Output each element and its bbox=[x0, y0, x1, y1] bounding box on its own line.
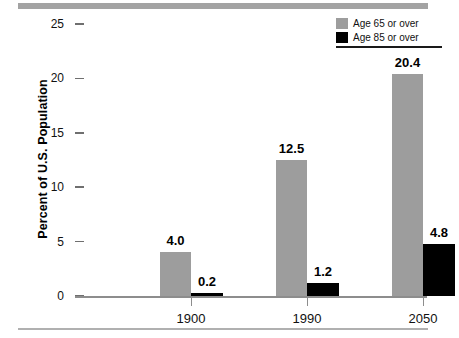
bar-1990-series-2 bbox=[307, 283, 339, 296]
top-divider-rule bbox=[18, 3, 428, 9]
y-axis-tick-label: 15 bbox=[34, 127, 64, 139]
x-axis-baseline bbox=[75, 296, 427, 298]
x-axis-tick bbox=[191, 296, 192, 306]
plot-area: 4.00.212.51.220.44.8 190019902050 bbox=[75, 24, 427, 300]
x-axis-label-1990: 1990 bbox=[267, 311, 347, 326]
bar-1900-series-2 bbox=[191, 293, 223, 296]
x-axis-label-2050: 2050 bbox=[383, 311, 459, 326]
y-axis-tick-label: 20 bbox=[34, 72, 64, 84]
bar-2050-series-1 bbox=[392, 74, 423, 296]
bar-value-label: 4.8 bbox=[404, 225, 459, 240]
bar-value-label: 1.2 bbox=[288, 264, 358, 279]
bar-value-label: 0.2 bbox=[172, 274, 242, 289]
bars-container: 4.00.212.51.220.44.8 bbox=[75, 24, 427, 296]
bottom-divider-rule bbox=[18, 328, 428, 330]
y-axis-tick-labels: 0510152025 bbox=[28, 24, 64, 300]
y-axis-tick-label: 5 bbox=[34, 236, 64, 248]
bar-value-label: 12.5 bbox=[257, 141, 327, 156]
y-axis-tick-label: 0 bbox=[34, 290, 64, 302]
x-axis-tick bbox=[307, 296, 308, 306]
y-axis-tick-label: 10 bbox=[34, 181, 64, 193]
bar-value-label: 20.4 bbox=[373, 55, 443, 70]
x-axis-tick bbox=[423, 296, 424, 306]
bar-value-label: 4.0 bbox=[141, 233, 211, 248]
y-axis-tick-label: 25 bbox=[34, 18, 64, 30]
x-axis-label-1900: 1900 bbox=[151, 311, 231, 326]
bar-2050-series-2 bbox=[423, 244, 455, 296]
